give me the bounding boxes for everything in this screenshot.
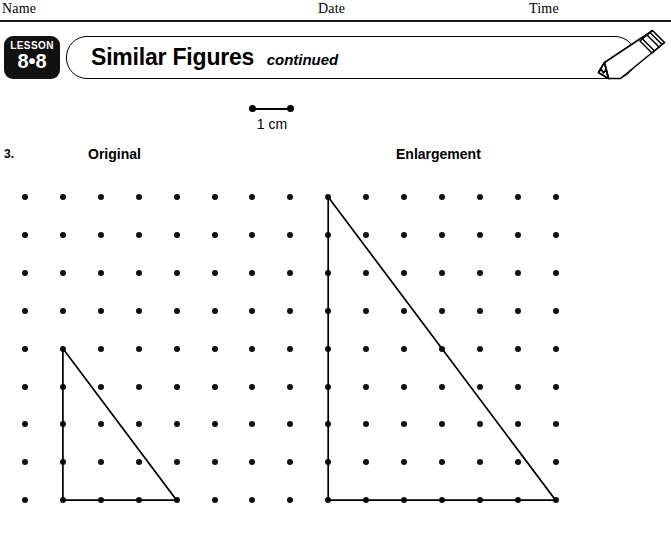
scale-bar: 1 cm bbox=[244, 104, 300, 136]
original-column-label: Original bbox=[88, 146, 141, 162]
title-text-group: Similar Figures continued bbox=[91, 44, 338, 71]
scale-bar-dot-left bbox=[249, 105, 256, 112]
header-divider bbox=[0, 20, 671, 22]
title-continued-note: continued bbox=[267, 51, 339, 68]
time-field-label: Time bbox=[529, 1, 559, 17]
pencil-icon bbox=[592, 28, 668, 86]
date-field-label: Date bbox=[318, 1, 345, 17]
enlargement-triangle bbox=[328, 197, 555, 500]
page-title: Similar Figures bbox=[91, 44, 254, 70]
original-triangle bbox=[63, 349, 177, 501]
scale-bar-label: 1 cm bbox=[236, 116, 308, 132]
scale-bar-dot-right bbox=[287, 105, 294, 112]
pencil-icon-svg bbox=[592, 28, 668, 86]
scale-bar-line bbox=[252, 108, 290, 110]
enlargement-column-label: Enlargement bbox=[396, 146, 481, 162]
dot-grid bbox=[0, 180, 671, 520]
figures-layer bbox=[0, 180, 671, 520]
title-banner: Similar Figures continued bbox=[66, 36, 636, 79]
problem-number: 3. bbox=[4, 147, 14, 161]
lesson-badge-number: 8•8 bbox=[4, 50, 60, 72]
name-field-label: Name bbox=[2, 1, 36, 17]
page-header: Name Date Time bbox=[0, 0, 671, 22]
lesson-badge: LESSON 8•8 bbox=[4, 36, 60, 79]
